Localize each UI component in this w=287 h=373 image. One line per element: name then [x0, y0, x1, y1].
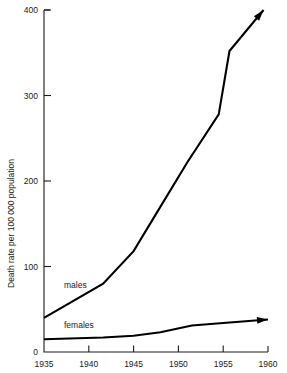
y-tick-label-0: 0 — [33, 347, 38, 357]
line-chart: Death rate per 100 000 population 400 30… — [0, 0, 287, 373]
x-tick-label-1960: 1960 — [259, 359, 278, 369]
x-axis-tick-labels: 1935 1940 1945 1950 1955 1960 — [35, 359, 278, 369]
series-label-males: males — [64, 280, 87, 290]
x-tick-label-1955: 1955 — [214, 359, 233, 369]
x-axis-ticks — [89, 346, 223, 353]
y-axis-tick-labels: 400 300 200 100 0 — [24, 5, 38, 357]
y-tick-label-200: 200 — [24, 176, 38, 186]
series-line-males — [44, 10, 264, 318]
series-labels: males females — [64, 280, 94, 330]
y-axis-ticks — [44, 10, 51, 267]
series-label-females: females — [64, 320, 94, 330]
chart-container: Death rate per 100 000 population 400 30… — [0, 0, 287, 373]
x-tick-label-1940: 1940 — [79, 359, 98, 369]
x-tick-label-1945: 1945 — [124, 359, 143, 369]
y-tick-label-400: 400 — [24, 5, 38, 15]
x-tick-label-1950: 1950 — [169, 359, 188, 369]
axis-lines — [44, 10, 268, 352]
x-tick-label-1935: 1935 — [35, 359, 54, 369]
y-tick-label-100: 100 — [24, 262, 38, 272]
y-tick-label-300: 300 — [24, 91, 38, 101]
y-axis-title: Death rate per 100 000 population — [6, 159, 16, 288]
